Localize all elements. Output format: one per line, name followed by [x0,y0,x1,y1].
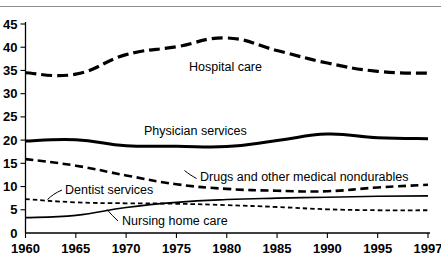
series-label-physician-services: Physician services [144,124,247,138]
x-tick-label: 1960 [11,241,40,256]
y-tick-label: 30 [3,86,17,101]
y-tick-label: 5 [10,202,17,217]
y-tick-label: 25 [3,109,17,124]
y-axis-tick-labels: 051015202530354045 [3,17,17,241]
x-tick-label: 1970 [112,241,141,256]
y-tick-label: 0 [10,226,17,241]
series-label-dentist-services: Dentist services [65,183,153,197]
y-tick-label: 10 [3,179,17,194]
x-tick-label: 1980 [212,241,241,256]
leader-dentist [48,190,63,200]
x-tick-label: 1965 [61,241,90,256]
series-label-hospital-care: Hospital care [189,60,262,74]
x-tick-label: 1975 [162,241,191,256]
y-tick-label: 45 [3,17,17,32]
x-axis-ticks [26,233,429,238]
series-label-drugs: Drugs and other medical nondurables [200,170,408,184]
chart-canvas: 051015202530354045 196019651970197519801… [0,0,441,258]
y-tick-label: 35 [3,63,17,78]
series-label-nursing-home-care: Nursing home care [122,214,228,228]
series-line-dentist-services [26,199,429,210]
leader-drugs [185,171,197,179]
y-tick-label: 15 [3,156,17,171]
y-axis-ticks [21,24,26,210]
line-chart: 051015202530354045 196019651970197519801… [0,0,441,258]
x-tick-label: 1995 [363,241,392,256]
y-tick-label: 20 [3,133,17,148]
leader-nursing [107,210,118,222]
x-tick-label: 1990 [313,241,342,256]
y-tick-label: 40 [3,40,17,55]
x-tick-label: 1985 [263,241,292,256]
x-axis-tick-labels: 196019651970197519801985199019951997 [11,241,441,256]
x-tick-label: 1997 [414,241,441,256]
